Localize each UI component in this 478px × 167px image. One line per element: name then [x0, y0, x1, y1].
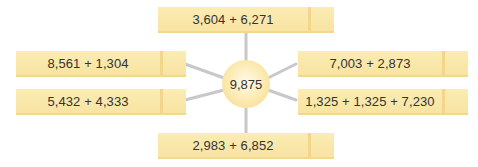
expression-text: 5,432 + 4,333 [16, 94, 160, 109]
answer-slot [308, 7, 334, 31]
connector-lower-right [268, 90, 296, 100]
expression-text: 7,003 + 2,873 [298, 56, 442, 71]
expression-box-top: 3,604 + 6,271 [158, 7, 334, 33]
connector-upper-right [268, 64, 296, 78]
answer-slot [442, 51, 468, 75]
answer-slot [308, 133, 334, 157]
expression-text: 8,561 + 1,304 [16, 56, 160, 71]
answer-slot [160, 51, 186, 75]
expression-box-bottom: 2,983 + 6,852 [158, 133, 334, 159]
answer-slot [442, 89, 468, 113]
expression-box-lower-left: 5,432 + 4,333 [16, 89, 186, 115]
expression-text: 1,325 + 1,325 + 7,230 [298, 94, 442, 109]
expression-box-upper-left: 8,561 + 1,304 [16, 51, 186, 77]
expression-text: 2,983 + 6,852 [158, 138, 308, 153]
connector-lower-left [185, 90, 224, 100]
expression-text: 3,604 + 6,271 [158, 12, 308, 27]
center-target-number: 9,875 [222, 60, 270, 108]
expression-box-upper-right: 7,003 + 2,873 [298, 51, 468, 77]
expression-box-lower-right: 1,325 + 1,325 + 7,230 [298, 89, 468, 115]
connector-upper-left [185, 64, 224, 78]
answer-slot [160, 89, 186, 113]
